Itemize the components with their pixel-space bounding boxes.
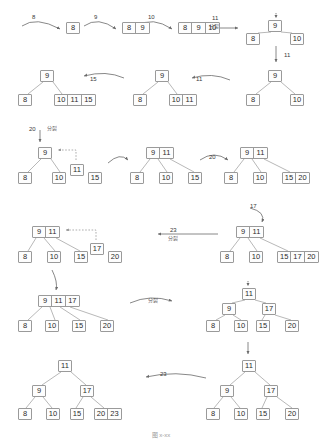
node-key-cell: 20 (101, 321, 113, 331)
figure-caption: 图 x-xx (0, 430, 322, 439)
node-r5-m1-r: 9 (222, 303, 236, 315)
node-key-cell: 20 (286, 321, 298, 331)
node-key-cell: 8 (221, 252, 233, 262)
node-key-cell: 20 (286, 409, 298, 419)
node-r6-l1-r: 8 (206, 408, 220, 420)
node-key-cell: 15 (189, 173, 201, 183)
node-r2-root-c: 9 (268, 70, 282, 82)
node-key-cell: 8 (131, 173, 143, 183)
node-key-cell: 11 (52, 296, 65, 306)
node-key-cell: 17 (81, 386, 93, 396)
arrow-label-lab-17: 17 (250, 203, 257, 209)
node-key-cell: 10 (291, 34, 303, 44)
node-r5-l1-r: 8 (206, 320, 220, 332)
node-key-cell: 11 (46, 227, 59, 237)
node-r4-root-r: 911 (236, 226, 264, 238)
node-r3-root-a: 9 (38, 147, 52, 159)
node-r4-l3-r: 151720 (277, 251, 319, 263)
node-key-cell: 11 (250, 227, 263, 237)
node-r3-l2-c: 10 (253, 172, 267, 184)
node-r6-m1-r: 9 (220, 385, 234, 397)
node-r5-l2-r: 10 (234, 320, 248, 332)
figure-canvas: 8898910981098109810119810111598101115911… (0, 0, 322, 441)
node-r3-root-b: 911 (146, 147, 174, 159)
node-key-cell: 8 (225, 173, 237, 183)
node-r5-m2-r: 17 (262, 303, 276, 315)
node-key-cell: 9 (39, 148, 51, 158)
node-key-cell: 9 (223, 304, 235, 314)
node-key-cell: 9 (241, 148, 254, 158)
node-r6-l3-r: 15 (256, 408, 270, 420)
node-key-cell: 9 (269, 71, 281, 81)
arrow-label-lab-23a: 23 (170, 227, 177, 233)
arrow-label-lab-11a-cn: 分裂 (209, 24, 219, 29)
node-r6-root-l: 11 (58, 360, 72, 372)
node-key-cell: 9 (41, 71, 53, 81)
node-key-cell: 8 (19, 173, 31, 183)
node-key-cell: 17 (291, 252, 304, 262)
node-key-cell: 9 (156, 71, 168, 81)
arrow-label-lab-11b: 11 (284, 52, 290, 58)
node-key-cell: 8 (247, 34, 259, 44)
node-key-cell: 11 (254, 148, 267, 158)
node-key-cell: 20 (95, 409, 108, 419)
node-r5-root-r: 11 (242, 288, 256, 300)
node-key-cell: 10 (250, 252, 262, 262)
arrow-label-lab-15: 15 (90, 76, 97, 82)
arrow-label-lab-split-mid: 分裂 (148, 298, 158, 303)
node-key-cell: 15 (283, 173, 296, 183)
node-r2-l2-a: 101115 (54, 94, 96, 106)
arrow-label-lab-20b: 20 (209, 154, 216, 160)
node-key-cell: 11 (243, 361, 255, 371)
node-r6-l2-l: 10 (46, 408, 60, 420)
node-r5-l3-r: 15 (256, 320, 270, 332)
node-key-cell: 17 (91, 244, 103, 254)
node-r5-l3-l: 15 (72, 320, 86, 332)
node-r2-l1-a: 8 (18, 94, 32, 106)
arrow-label-lab-23b: 23 (160, 371, 167, 377)
node-key-cell: 10 (47, 409, 59, 419)
node-r3-root-c: 911 (240, 147, 268, 159)
node-key-cell: 8 (19, 95, 31, 105)
arrow-label-lab-10: 10 (148, 14, 155, 20)
node-key-cell: 8 (134, 95, 146, 105)
node-key-cell: 15 (89, 173, 101, 183)
arrow-label-lab-9: 9 (94, 14, 97, 20)
node-key-cell: 15 (257, 321, 269, 331)
node-r3-l1-a: 8 (18, 172, 32, 184)
node-key-cell: 11 (160, 148, 173, 158)
node-r1-n2: 89 (122, 22, 150, 34)
node-r6-l2-r: 10 (234, 408, 248, 420)
node-key-cell: 9 (33, 386, 45, 396)
node-key-cell: 17 (265, 386, 277, 396)
node-key-cell: 10 (254, 173, 266, 183)
node-key-cell: 10 (55, 95, 68, 105)
node-key-cell: 15 (71, 409, 83, 419)
node-key-cell: 9 (192, 23, 205, 33)
node-key-cell: 15 (278, 252, 291, 262)
node-key-cell: 11 (243, 289, 255, 299)
node-r5-root-l: 91117 (38, 295, 80, 307)
node-key-cell: 9 (237, 227, 250, 237)
node-key-cell: 20 (109, 252, 121, 262)
arrow-label-lab-20a-cn: 分裂 (47, 126, 57, 131)
node-r5-l4-l: 20 (100, 320, 114, 332)
node-r3-mid-a: 11 (70, 164, 84, 176)
node-r6-l3-l: 15 (70, 408, 84, 420)
node-key-cell: 15 (73, 321, 85, 331)
node-r5-l4-r: 20 (285, 320, 299, 332)
arrow-label-lab-20a: 20 (29, 126, 36, 132)
node-key-cell: 15 (75, 252, 87, 262)
node-r4-l3-l: 15 (74, 251, 88, 263)
node-key-cell: 9 (221, 386, 233, 396)
node-r3-l2-a: 10 (52, 172, 66, 184)
arrow-label-lab-23a-cn: 分裂 (168, 236, 178, 241)
node-key-cell: 9 (147, 148, 160, 158)
node-r1-n1: 8 (66, 22, 80, 34)
node-key-cell: 15 (82, 95, 95, 105)
node-r3-l3-b: 15 (188, 172, 202, 184)
node-key-cell: 10 (160, 173, 172, 183)
node-key-cell: 8 (207, 409, 219, 419)
node-r4-l4-l: 20 (108, 251, 122, 263)
node-r6-m2-r: 17 (264, 385, 278, 397)
